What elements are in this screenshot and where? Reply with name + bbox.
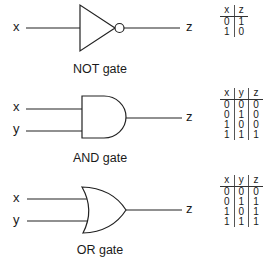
or-input-y-label: y [13,213,20,226]
not-triangle [80,5,115,51]
not-gate-symbol [26,5,180,51]
cell: 1 [234,130,249,140]
or-gate-caption: OR gate [50,244,150,257]
header-x: x [220,88,234,100]
or-input-x-label: x [13,191,20,204]
table-header-row: x z [220,5,248,17]
header-x: x [220,5,234,17]
table-row: 1 1 1 [220,130,263,140]
cell: 1 [220,27,234,37]
cell: 0 [234,27,248,37]
table-header-row: x y z [220,88,263,100]
and-truth-table: x y z 0 0 0 0 1 0 1 0 0 1 1 1 [220,88,263,140]
not-gate-caption: NOT gate [50,63,150,76]
table-row: 1 1 1 [220,217,263,227]
cell: 1 [220,217,234,227]
and-body [82,96,126,138]
header-y: y [234,88,249,100]
not-input-x-label: x [13,20,20,33]
header-z: z [249,88,263,100]
or-truth-table: x y z 0 0 0 0 1 1 1 0 1 1 1 1 [220,175,263,227]
and-input-y-label: y [13,122,20,135]
header-z: z [249,175,263,187]
table-row: 1 0 [220,27,248,37]
cell: 1 [249,217,263,227]
cell: 1 [234,217,249,227]
header-x: x [220,175,234,187]
not-truth-table: x z 0 1 1 0 [220,5,248,37]
table-header-row: x y z [220,175,263,187]
and-output-z-label: z [186,110,193,123]
and-input-x-label: x [13,100,20,113]
or-output-z-label: z [186,202,193,215]
cell: 1 [249,130,263,140]
or-gate-symbol [27,187,182,233]
or-body [82,187,126,233]
and-gate-symbol [26,96,182,138]
not-output-z-label: z [186,20,193,33]
cell: 1 [220,130,234,140]
and-gate-caption: AND gate [50,152,150,165]
header-y: y [234,175,249,187]
header-z: z [234,5,248,17]
not-bubble [115,24,124,33]
